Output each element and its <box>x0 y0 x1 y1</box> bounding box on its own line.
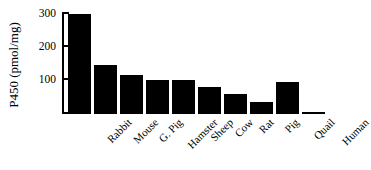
y-axis-title: P450 (pmol/mg) <box>6 4 22 126</box>
x-tick-label-pig: Pig <box>282 116 301 135</box>
plot-area <box>64 12 322 114</box>
x-tick-label-rabbit: Rabbit <box>105 116 134 145</box>
y-tick-label-100: 100 <box>22 74 56 86</box>
x-tick-label-cow: Cow <box>232 116 255 139</box>
x-tick-label-g-pig: G. Pig <box>156 116 184 144</box>
bar-quail <box>276 82 299 114</box>
y-axis-tick-labels: 300 200 100 <box>22 0 56 170</box>
x-axis-tick-labels: Rabbit Mouse G. Pig Hamster Sheep Cow Ra… <box>64 116 322 170</box>
bar-mouse <box>94 65 117 114</box>
x-tick-label-mouse: Mouse <box>131 116 161 146</box>
y-tick-label-300: 300 <box>22 8 56 20</box>
bar-hamster <box>146 80 169 114</box>
y-tick-label-200: 200 <box>22 41 56 53</box>
bar-rat <box>224 94 247 114</box>
bar-cow <box>198 87 221 114</box>
x-tick-label-human: Human <box>339 116 370 147</box>
bar-pig <box>250 102 273 114</box>
x-tick-label-rat: Rat <box>256 116 275 135</box>
bar-rabbit <box>68 14 91 114</box>
bar-g-pig <box>120 75 143 114</box>
bar-sheep <box>172 80 195 114</box>
bar-human <box>302 112 325 114</box>
x-tick-label-quail: Quail <box>311 116 337 142</box>
